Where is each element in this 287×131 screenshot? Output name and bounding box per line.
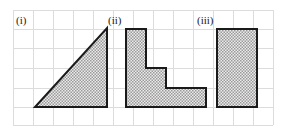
shape-label-iii: (iii) [197,14,214,26]
figure-screenshot: (i) (ii) (iii) [0,0,287,131]
shape-label-ii: (ii) [108,14,121,26]
shape-label-i: (i) [16,14,26,26]
shape-rectangle [217,29,257,107]
geometry-figure [0,0,287,131]
